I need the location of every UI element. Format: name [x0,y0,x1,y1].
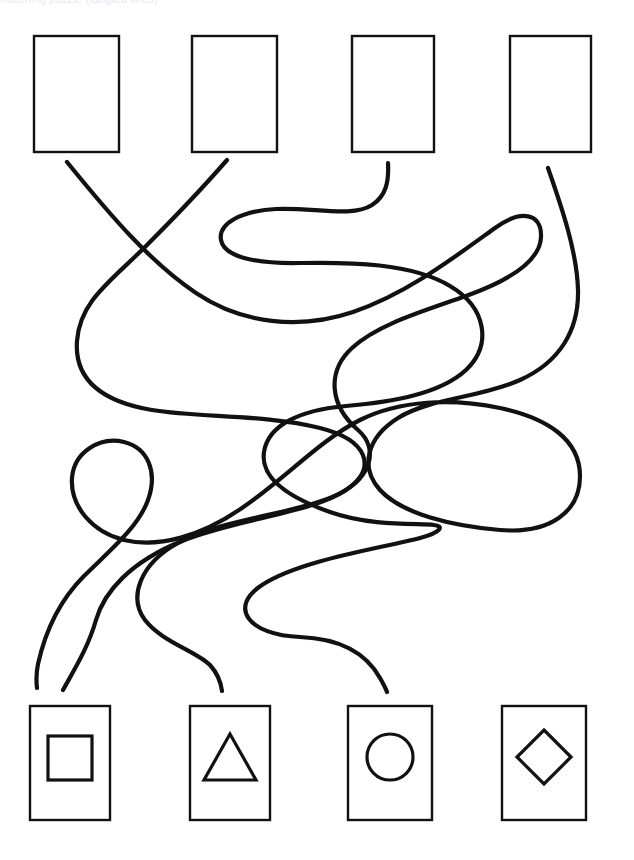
top-box-4[interactable] [510,36,591,152]
bottom-box-4[interactable] [502,706,586,820]
bottom-box-2[interactable] [190,706,270,820]
bottom-box-2-group[interactable] [190,706,270,820]
circle-icon [367,734,413,780]
bottom-box-1-group[interactable] [30,706,110,820]
bottom-box-4-group[interactable] [502,706,586,820]
tangle-lines-group [36,160,580,692]
top-box-3[interactable] [352,36,434,152]
top-box-2[interactable] [192,36,277,152]
bottom-box-1[interactable] [30,706,110,820]
tangled-lines-puzzle: matching puzzle (tangled lines) [0,0,634,860]
bottom-row-group [30,706,586,820]
top-row-group [34,36,591,152]
bottom-box-3[interactable] [348,706,432,820]
top-box-1[interactable] [34,36,119,152]
bottom-box-3-group[interactable] [348,706,432,820]
diamond-icon [517,730,571,784]
triangle-icon [204,734,256,780]
tangle-line-2[interactable] [63,160,365,690]
tangle-line-4[interactable] [36,168,580,688]
square-icon [48,736,92,780]
puzzle-canvas [0,0,634,860]
tangle-line-3[interactable] [221,163,483,692]
